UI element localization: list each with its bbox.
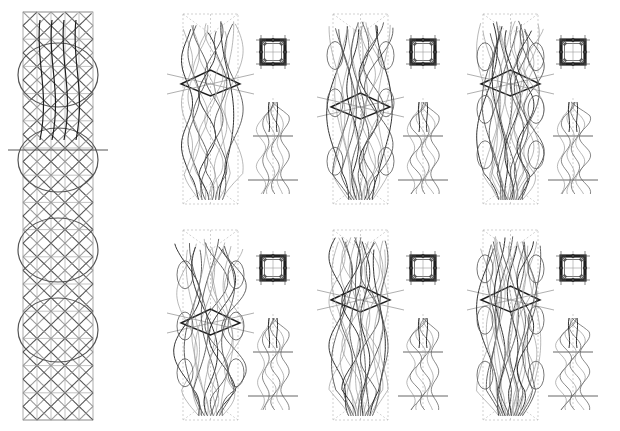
plan-view — [556, 35, 590, 69]
figure-canvas — [0, 0, 620, 431]
plan-view — [256, 35, 290, 69]
plan-view — [406, 35, 440, 69]
plan-view — [256, 251, 290, 285]
plan-view — [406, 251, 440, 285]
plan-view — [556, 251, 590, 285]
